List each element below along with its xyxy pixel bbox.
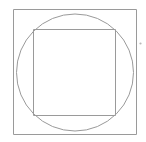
figure-canvas	[0, 0, 146, 142]
edge-mark-dot	[139, 42, 141, 44]
geometric-figure	[0, 0, 146, 142]
inner-square	[34, 30, 116, 116]
